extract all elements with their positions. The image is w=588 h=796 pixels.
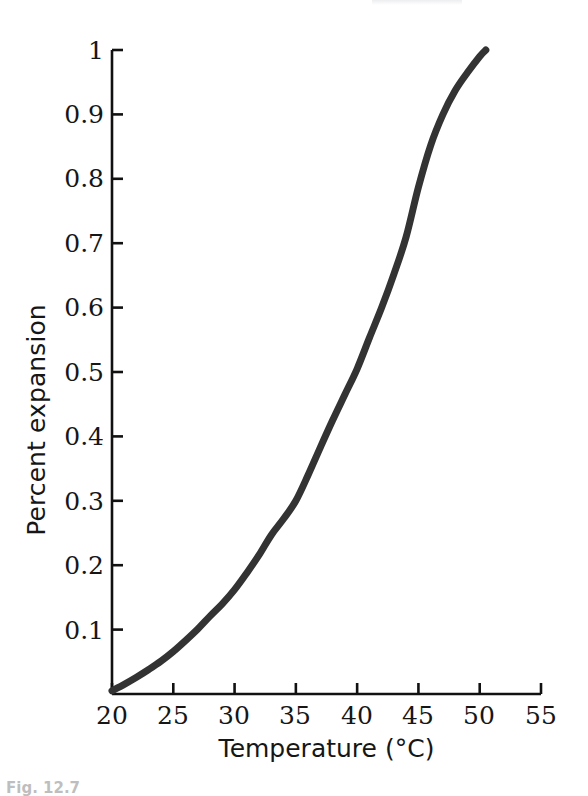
y-tick-marks [112,50,123,630]
x-tick-marks [112,683,541,694]
figure-caption-partial: Fig. 12.7 [6,779,266,796]
data-series-line [112,50,486,691]
axis-spines [112,50,541,694]
figure-panel: Percent expansion Temperature (°C) 1 0.9… [0,0,588,796]
plot-area [0,0,588,796]
